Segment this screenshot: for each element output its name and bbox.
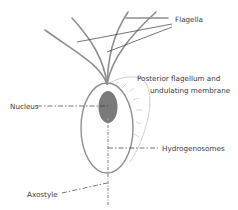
label-posterior-line1: Posterior flagellum and — [137, 74, 220, 83]
flagella-leader-2 — [107, 27, 172, 52]
undulating-membrane — [108, 77, 150, 162]
trichomonas-diagram: Flagella Posterior flagellum and undulat… — [0, 0, 238, 210]
label-hydrogenosomes: Hydrogenosomes — [162, 144, 225, 153]
axostyle-leader — [62, 183, 107, 193]
label-nucleus: Nucleus — [10, 102, 39, 111]
label-posterior-line2: undulating membrane — [150, 86, 231, 95]
label-axostyle: Axostyle — [27, 190, 58, 199]
flagella-leader-1 — [77, 24, 172, 42]
label-flagella: Flagella — [175, 15, 203, 24]
